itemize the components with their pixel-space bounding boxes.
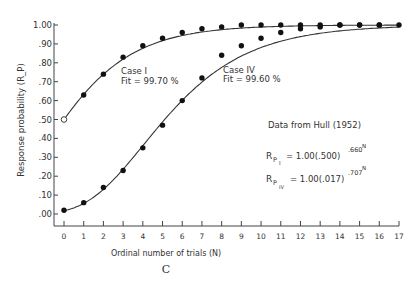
case1-point — [258, 22, 263, 27]
case4-point — [61, 208, 66, 213]
case4-point — [180, 98, 185, 103]
x-tick-label: 15 — [355, 232, 365, 241]
case1-fit: Fit = 99.70 % — [121, 76, 179, 86]
y-tick-label: .60 — [38, 96, 52, 106]
x-tick-label: 7 — [200, 232, 205, 241]
eq1-subsub: I — [279, 160, 281, 166]
y-tick-label: .70 — [38, 77, 52, 87]
case4-point — [278, 30, 283, 35]
panel-label: C — [162, 263, 170, 276]
case1-point — [180, 30, 185, 35]
x-tick-label: 8 — [219, 232, 224, 241]
y-tick-label: .10 — [38, 190, 52, 200]
eq2-rhs: = 1.00(.017) — [290, 174, 344, 184]
x-tick-label: 16 — [375, 232, 385, 241]
fit-curves — [64, 25, 399, 211]
y-tick-label: .80 — [38, 58, 52, 68]
x-tick-label: 10 — [256, 232, 266, 241]
y-axis-label: Response probability (R_P) — [16, 63, 26, 177]
case4-point — [298, 26, 303, 31]
case1-point — [199, 26, 204, 31]
case1-point — [219, 24, 224, 29]
case4-point — [81, 200, 86, 205]
case1-point — [160, 36, 165, 41]
case4-fit-curve — [64, 27, 399, 211]
eq1-r: R — [266, 151, 272, 161]
case4-point — [160, 122, 165, 127]
case4-point — [140, 145, 145, 150]
eq2-subsub: IV — [279, 184, 284, 190]
x-tick-label: 0 — [62, 232, 67, 241]
y-tick-label: .50 — [38, 115, 52, 125]
case1-point — [278, 22, 283, 27]
equation-case4: R P IV = 1.00(.017) .707 N — [266, 165, 366, 190]
case4-fit: Fit = 99.60 % — [223, 74, 281, 84]
case4-point — [317, 24, 322, 29]
x-tick-label: 5 — [160, 232, 165, 241]
eq1-exp: .660 — [348, 146, 362, 154]
y-tick-label: 1.00 — [33, 20, 52, 30]
case4-point — [239, 43, 244, 48]
x-tick-label: 13 — [315, 232, 325, 241]
eq2-sub: P — [273, 179, 277, 187]
case4-point — [219, 53, 224, 58]
case4-point — [377, 22, 382, 27]
y-tick-label: .30 — [38, 152, 52, 162]
eq2-exp: .707 — [348, 169, 362, 177]
case1-point — [101, 71, 106, 76]
x-tick-label: 6 — [180, 232, 185, 241]
y-tick-label: .00 — [38, 209, 52, 219]
case1-point — [120, 54, 125, 59]
x-tick-label: 12 — [296, 232, 306, 241]
source-note: Data from Hull (1952) — [268, 120, 361, 130]
x-tick-label: 1 — [81, 232, 86, 241]
x-tick-label: 9 — [239, 232, 244, 241]
eq2-expsup: N — [362, 165, 366, 171]
case1-point — [81, 92, 86, 97]
axes: .00.10.20.30.40.50.60.70.80.901.00012345… — [33, 20, 404, 241]
x-tick-label: 11 — [276, 232, 286, 241]
chart: .00.10.20.30.40.50.60.70.80.901.00012345… — [0, 0, 413, 286]
x-tick-label: 4 — [140, 232, 145, 241]
y-tick-label: .20 — [38, 171, 52, 181]
case1-point — [61, 117, 67, 123]
case4-point — [101, 185, 106, 190]
x-tick-label: 17 — [394, 232, 404, 241]
equation-case1: R P I = 1.00(.500) .660 N — [266, 143, 366, 166]
case4-point — [337, 22, 342, 27]
case4-point — [357, 22, 362, 27]
case1-label: Case I — [121, 66, 147, 76]
case4-point — [199, 75, 204, 80]
eq1-expsup: N — [362, 143, 366, 149]
x-axis-label: Ordinal number of trials (N) — [111, 249, 221, 258]
case1-point — [239, 22, 244, 27]
data-points — [61, 22, 401, 213]
x-tick-label: 2 — [101, 232, 106, 241]
case4-point — [120, 168, 125, 173]
eq2-r: R — [266, 174, 272, 184]
x-tick-label: 14 — [335, 232, 345, 241]
y-tick-label: .90 — [38, 39, 52, 49]
x-tick-label: 3 — [121, 232, 126, 241]
eq1-rhs: = 1.00(.500) — [286, 151, 340, 161]
case4-point — [258, 36, 263, 41]
case1-point — [140, 43, 145, 48]
y-tick-label: .40 — [38, 133, 52, 143]
eq1-sub: P — [273, 156, 277, 164]
case4-point — [396, 22, 401, 27]
